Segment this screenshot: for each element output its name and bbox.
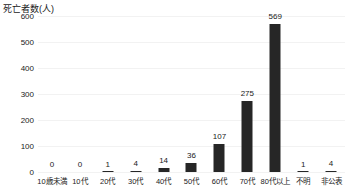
x-axis-tick-label: 80代以上 <box>261 175 290 186</box>
bar[interactable] <box>242 101 253 173</box>
bar-value-label: 4 <box>133 160 137 168</box>
x-axis-tick-label: 10歳未満 <box>37 175 66 186</box>
x-axis-tick-label: 10代 <box>72 175 87 186</box>
bar-value-label: 4 <box>329 160 333 168</box>
bar-value-label: 14 <box>159 157 168 165</box>
x-axis-tick-label: 20代 <box>100 175 115 186</box>
gridline <box>38 172 345 173</box>
y-axis-tick-label: 100 <box>4 142 34 151</box>
bar[interactable] <box>270 24 281 172</box>
bar-group[interactable]: 107 <box>205 16 233 172</box>
x-axis-tick-labels: 10歳未満10代20代30代40代50代60代70代80代以上不明非公表 <box>38 175 345 193</box>
bar-group[interactable]: 569 <box>261 16 289 172</box>
x-axis-tick-label: 70代 <box>240 175 255 186</box>
x-axis-tick-label: 非公表 <box>321 175 342 186</box>
bar[interactable] <box>298 171 309 172</box>
bar-value-label: 0 <box>78 161 82 169</box>
x-axis-tick-label: 不明 <box>296 175 310 186</box>
bar-value-label: 0 <box>50 161 54 169</box>
bar-group[interactable]: 1 <box>94 16 122 172</box>
bar-value-label: 1 <box>301 161 305 169</box>
bar[interactable] <box>186 163 197 172</box>
x-axis-tick-label: 60代 <box>212 175 227 186</box>
y-axis-tick-label: 600 <box>4 12 34 21</box>
bar-chart-deaths-by-age: 死亡者数(人) 0100200300400500600 001414361072… <box>0 0 351 195</box>
bar[interactable] <box>326 171 337 172</box>
bar-group[interactable]: 0 <box>66 16 94 172</box>
bar-value-label: 36 <box>187 152 196 160</box>
bar-group[interactable]: 275 <box>233 16 261 172</box>
bar-value-label: 1 <box>106 161 110 169</box>
x-axis-tick-label: 50代 <box>184 175 199 186</box>
bar[interactable] <box>102 171 113 172</box>
y-axis-tick-label: 0 <box>4 168 34 177</box>
y-axis-tick-labels: 0100200300400500600 <box>0 16 34 172</box>
bar[interactable] <box>158 168 169 172</box>
bars-layer: 0014143610727556914 <box>38 16 345 172</box>
bar-group[interactable]: 36 <box>178 16 206 172</box>
bar-value-label: 107 <box>213 133 226 141</box>
bar[interactable] <box>130 171 141 172</box>
y-axis-tick-label: 300 <box>4 90 34 99</box>
bar-group[interactable]: 14 <box>150 16 178 172</box>
y-axis-tick-label: 200 <box>4 116 34 125</box>
bar-group[interactable]: 1 <box>289 16 317 172</box>
bar-value-label: 569 <box>269 13 282 21</box>
bar-group[interactable]: 0 <box>38 16 66 172</box>
bar-group[interactable]: 4 <box>122 16 150 172</box>
y-axis-tick-label: 400 <box>4 64 34 73</box>
bar[interactable] <box>214 144 225 172</box>
bar-value-label: 275 <box>241 90 254 98</box>
x-axis-tick-label: 40代 <box>156 175 171 186</box>
bar-group[interactable]: 4 <box>317 16 345 172</box>
y-axis-tick-label: 500 <box>4 38 34 47</box>
x-axis-tick-label: 30代 <box>128 175 143 186</box>
